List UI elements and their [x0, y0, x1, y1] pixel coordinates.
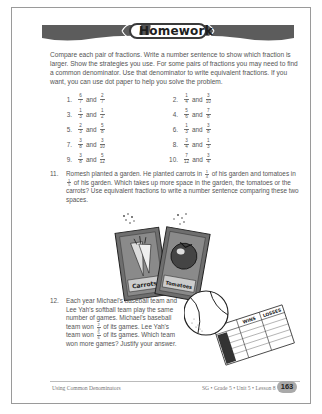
problem-11: 11. Romesh planted a garden. He planted …: [50, 170, 302, 204]
problem-5: 5. 23 and 58: [58, 123, 106, 135]
fraction: 27: [100, 94, 105, 104]
fraction: 34: [206, 154, 211, 164]
fraction: 14: [205, 170, 209, 179]
fraction: 38: [78, 139, 83, 149]
footer-lesson-title: Using Common Denominators: [52, 385, 121, 391]
problem-12-text: Each year Michael's baseball team and Le…: [66, 297, 180, 349]
problem-8: 8. 34 and 13: [164, 138, 212, 150]
fraction: 13: [78, 109, 83, 119]
fraction: 78: [206, 109, 211, 119]
instructions: Compare each pair of fractions. Write a …: [50, 50, 300, 86]
fraction: 512: [100, 154, 105, 164]
baseball-icon: [184, 291, 228, 335]
problem-7: 7. 38 and 310: [58, 138, 106, 150]
fraction: 13: [206, 139, 211, 149]
fraction: 12: [100, 109, 105, 119]
fraction: 15: [67, 179, 71, 188]
problem-9: 9. 38 and 512: [58, 153, 106, 165]
problem-11-text: Romesh planted a garden. He planted carr…: [66, 170, 302, 204]
fraction: 56: [184, 109, 189, 119]
problem-6: 6. 13 and 38: [164, 123, 212, 135]
problem-1: 1. 67 and 27: [58, 93, 106, 105]
problem-3: 3. 13 and 12: [58, 108, 106, 120]
fraction: 310: [100, 139, 105, 149]
problem-10: 10. 712 and 34: [164, 153, 212, 165]
fraction: 712: [184, 154, 189, 164]
page-number: 163: [277, 381, 297, 393]
footer-divider: [50, 381, 300, 382]
fraction: 13: [184, 124, 189, 134]
fraction: 23: [78, 124, 83, 134]
problem-4: 4. 56 and 78: [164, 108, 212, 120]
fraction: 14: [184, 94, 189, 104]
homework-banner: Homework: [40, 21, 296, 45]
fraction: 38: [206, 124, 211, 134]
fraction: 310: [206, 94, 211, 104]
fraction: 56: [97, 331, 101, 340]
baseball-scorecard-illustration: WINS LOSSES: [184, 287, 304, 371]
fraction: 34: [184, 139, 189, 149]
page-title: Homework: [40, 24, 304, 38]
fraction: 58: [100, 124, 105, 134]
footer-course-info: SG • Grade 5 • Unit 5 • Lesson 8: [202, 385, 275, 391]
problem-2: 2. 14 and 310: [164, 93, 212, 105]
fraction: 38: [78, 154, 83, 164]
problem-12: 12. Each year Michael's baseball team an…: [50, 297, 180, 349]
fraction: 67: [78, 94, 83, 104]
